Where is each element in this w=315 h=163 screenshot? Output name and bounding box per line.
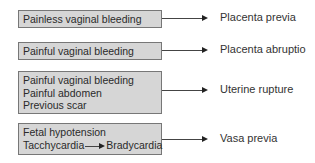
heart-rate-transition: TacchycardiaBradycardia [23,139,160,152]
symptom-text: Previous scar [23,99,157,112]
diagnosis-label: Uterine rupture [220,83,293,95]
symptom-box-placenta-previa: Painless vaginal bleeding [18,10,162,28]
symptom-text: Painless vaginal bleeding [23,13,142,25]
symptom-box-vasa-previa: Fetal hypotension TacchycardiaBradycardi… [18,123,162,155]
arrow-line [162,90,202,91]
symptom-box-uterine-rupture: Painful vaginal bleeding Painful abdomen… [18,71,162,114]
arrow-right-icon [85,142,105,150]
symptom-text: Fetal hypotension [23,126,160,139]
transition-from: Tacchycardia [23,139,84,151]
arrow-head-icon [202,136,208,142]
arrow-line [162,50,202,51]
symptom-box-placenta-abruptio: Painful vaginal bleeding [18,42,162,60]
arrow-head-icon [202,47,208,53]
diagnosis-label: Placenta previa [220,11,296,23]
diagnosis-label: Vasa previa [220,132,277,144]
transition-to: Bradycardia [106,139,162,151]
symptom-text: Painful abdomen [23,87,157,100]
arrow-line [162,18,202,19]
diagnosis-label: Placenta abruptio [220,43,306,55]
symptom-text: Painful vaginal bleeding [23,74,157,87]
arrow-head-icon [202,87,208,93]
arrow-head-icon [202,15,208,21]
symptom-text: Painful vaginal bleeding [23,45,134,57]
arrow-line [162,139,202,140]
